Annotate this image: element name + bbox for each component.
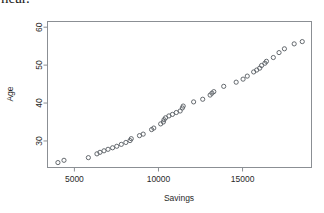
data-point [86, 156, 90, 160]
data-point [292, 42, 296, 46]
data-point [222, 84, 226, 88]
data-point [271, 55, 275, 59]
x-axis-tick-labels: 50001000015000 [65, 174, 255, 184]
scatter-plot: 50001000015000 30405060 Savings Age [0, 0, 324, 213]
data-point [241, 77, 245, 81]
scatter-plot-canvas: 50001000015000 30405060 Savings Age [0, 0, 324, 213]
data-point [282, 47, 286, 51]
screenshot-root: near. 50001000015000 30405060 Savings Ag… [0, 0, 324, 213]
y-tick-label: 30 [35, 136, 45, 146]
data-point [245, 74, 249, 78]
x-axis-title: Savings [164, 193, 194, 203]
y-axis-tick-labels: 30405060 [35, 22, 45, 145]
data-point [119, 142, 123, 146]
y-tick-label: 60 [35, 22, 45, 32]
y-axis-ticks [44, 27, 48, 141]
data-point [62, 158, 66, 162]
data-point [56, 160, 60, 164]
data-points [56, 39, 305, 164]
data-point [192, 100, 196, 104]
data-point [106, 147, 110, 151]
x-tick-label: 15000 [231, 174, 255, 184]
y-tick-label: 40 [35, 98, 45, 108]
y-tick-label: 50 [35, 60, 45, 70]
data-point [110, 146, 114, 150]
data-point [102, 149, 106, 153]
y-axis-title: Age [5, 86, 15, 101]
data-point [124, 140, 128, 144]
data-point [201, 97, 205, 101]
x-tick-label: 10000 [147, 174, 171, 184]
data-point [300, 39, 304, 43]
plot-frame [48, 22, 312, 168]
data-point [141, 132, 145, 136]
data-point [234, 80, 238, 84]
x-tick-label: 5000 [65, 174, 84, 184]
data-point [277, 50, 281, 54]
data-point [115, 144, 119, 148]
plot-frame-rect [48, 22, 312, 168]
x-axis-ticks [74, 168, 242, 172]
